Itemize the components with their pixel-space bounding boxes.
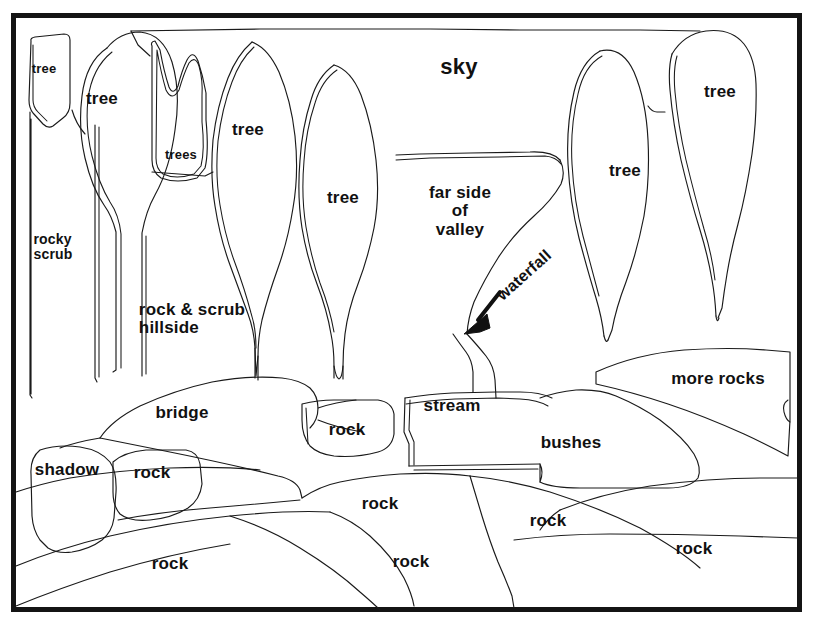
- tree-region-5-tip: [604, 336, 608, 341]
- tree-region-1: [29, 34, 70, 127]
- stream-channel-right: [467, 334, 496, 398]
- stream-channel-left: [453, 334, 473, 392]
- label-bushes: bushes: [541, 434, 602, 452]
- label-rocky-scrub: rocky scrub: [33, 232, 72, 262]
- rocky-scrub-right-edge: [95, 125, 97, 382]
- tree-region-1-inner: [33, 45, 47, 121]
- stream-bank-lower: [404, 398, 409, 466]
- label-rock-f: rock: [393, 553, 430, 571]
- scene-diagram: tree tree trees tree tree sky far side o…: [0, 0, 814, 628]
- label-shadow: shadow: [35, 461, 100, 479]
- label-bridge: bridge: [155, 404, 208, 422]
- waterfall-arrow: [464, 292, 500, 334]
- tree-region-5-inner: [572, 56, 602, 296]
- label-rock-d: rock: [530, 512, 567, 530]
- bushes-region-lower: [540, 464, 542, 482]
- more-rocks-region: [596, 349, 790, 457]
- label-stream: stream: [424, 397, 481, 415]
- tree-region-3-right: [252, 42, 297, 380]
- label-rock-e: rock: [152, 555, 189, 573]
- label-tree-2: tree: [86, 90, 118, 108]
- waterfall-arrow-shaft: [478, 292, 500, 320]
- midground-line-2: [118, 500, 300, 520]
- tree-notch-left: [72, 110, 85, 134]
- far-side-valley-region-2: [396, 156, 561, 164]
- tree-region-4-right: [334, 65, 378, 379]
- rock-region-g-top: [560, 478, 798, 510]
- tree-region-5-right: [600, 50, 649, 340]
- label-rock-and-scrub-hillside: rock & scrub hillside: [139, 301, 245, 338]
- label-trees: trees: [165, 148, 197, 162]
- label-tree-6: tree: [704, 83, 736, 101]
- label-rock-g: rock: [676, 540, 713, 558]
- label-far-side-of-valley: far side of valley: [429, 184, 491, 239]
- label-rock-b: rock: [134, 464, 171, 482]
- label-tree-5: tree: [609, 162, 641, 180]
- skyline-top: [131, 29, 700, 31]
- stream-bank-lower-2: [409, 400, 414, 465]
- trees-base-edge: [152, 172, 213, 176]
- rock-region-a-inner: [306, 408, 308, 444]
- tree-5-notch: [648, 106, 665, 112]
- label-tree-4: tree: [327, 189, 359, 207]
- rocky-scrub-region: [30, 112, 32, 398]
- more-rocks-region-notch: [784, 400, 791, 422]
- bottom-divider-2: [16, 544, 230, 606]
- label-rock-c: rock: [362, 495, 399, 513]
- tree-region-4: [299, 65, 334, 378]
- label-sky: sky: [440, 55, 477, 79]
- stream-bank-flat: [409, 464, 540, 470]
- label-rock-a: rock: [329, 421, 366, 439]
- rock-region-d: [470, 476, 700, 568]
- label-more-rocks: more rocks: [671, 370, 765, 388]
- bottom-divider-1: [230, 516, 380, 610]
- region-outlines: [16, 29, 798, 610]
- bridge-region: [100, 377, 318, 438]
- label-tree-3: tree: [232, 121, 264, 139]
- diagram-frame: [14, 16, 800, 610]
- scene-outline-svg: [0, 0, 814, 628]
- skyline-left-drop: [131, 31, 150, 56]
- label-tree-1: tree: [32, 62, 57, 76]
- rock-region-c-right: [470, 476, 514, 608]
- tree-region-4-tip: [334, 366, 343, 379]
